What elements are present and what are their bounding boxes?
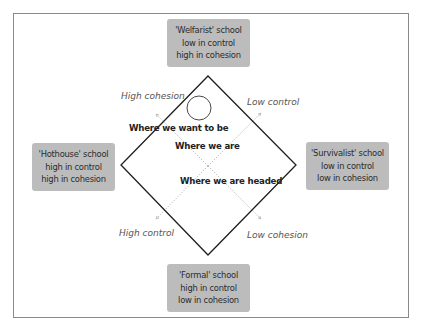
school-control: high in control xyxy=(180,282,237,295)
label-low-control: Low control xyxy=(247,97,300,107)
label-where-we-want-to-be: Where we want to be xyxy=(129,123,229,133)
school-name: 'Formal' school xyxy=(179,269,238,282)
school-cohesion: high in cohesion xyxy=(176,49,241,62)
school-cohesion: low in cohesion xyxy=(178,294,239,307)
hothouse-school-box: 'Hothouse' school high in control high i… xyxy=(32,143,115,191)
school-control: low in control xyxy=(321,160,374,173)
label-where-we-are-headed: Where we are headed xyxy=(180,176,282,186)
school-control: high in control xyxy=(45,161,102,174)
school-name: 'Hothouse' school xyxy=(39,148,109,161)
school-cohesion: low in cohesion xyxy=(317,172,378,185)
target-circle xyxy=(187,96,211,120)
welfarist-school-box: 'Welfarist' school low in control high i… xyxy=(167,19,250,67)
label-low-cohesion: Low cohesion xyxy=(247,230,308,240)
control-axis-line xyxy=(208,114,260,166)
school-name: 'Survivalist' school xyxy=(311,147,384,160)
school-control: low in control xyxy=(182,37,235,50)
school-name: 'Welfarist' school xyxy=(175,24,241,37)
formal-school-box: 'Formal' school high in control low in c… xyxy=(167,264,250,312)
school-cohesion: high in cohesion xyxy=(41,173,106,186)
label-where-we-are: Where we are xyxy=(175,141,240,151)
label-high-control: High control xyxy=(119,228,174,238)
label-high-cohesion: High cohesion xyxy=(121,91,185,101)
survivalist-school-box: 'Survivalist' school low in control low … xyxy=(306,142,389,190)
